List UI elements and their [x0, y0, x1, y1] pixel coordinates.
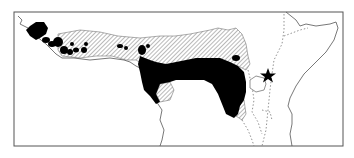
lake-outline — [250, 76, 266, 92]
map-canvas — [0, 0, 354, 158]
range-map — [0, 0, 354, 158]
